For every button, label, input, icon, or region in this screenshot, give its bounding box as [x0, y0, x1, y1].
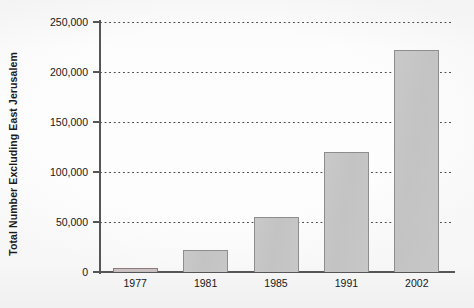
- x-axis-tick-label-1985: 1985: [264, 277, 287, 289]
- y-axis-tick: [93, 121, 100, 123]
- x-axis-tick-label-1991: 1991: [335, 277, 358, 289]
- y-axis-tick: [93, 221, 100, 223]
- x-axis-tick-label-2002: 2002: [405, 277, 428, 289]
- y-axis-tick-label: 0: [26, 266, 88, 278]
- y-axis-tick: [93, 271, 100, 273]
- bar-1985: [254, 217, 299, 272]
- bar-chart-figure: Total Number Excluding East Jerusalem 25…: [0, 0, 474, 308]
- plot-area: [100, 22, 452, 272]
- y-axis-tick-label: 150,000: [26, 116, 88, 128]
- y-axis-tick: [93, 171, 100, 173]
- y-axis-title: Total Number Excluding East Jerusalem: [0, 0, 26, 308]
- x-axis-tick-label-1981: 1981: [194, 277, 217, 289]
- x-axis-tick-label-1977: 1977: [124, 277, 147, 289]
- y-axis-tick-label: 250,000: [26, 16, 88, 28]
- y-axis-tick: [93, 71, 100, 73]
- bar-1977: [113, 268, 158, 273]
- y-axis-tick-label: 100,000: [26, 166, 88, 178]
- y-axis-tick-label: 200,000: [26, 66, 88, 78]
- y-axis-tick: [93, 21, 100, 23]
- bar-1991: [324, 152, 369, 272]
- bar-2002: [394, 50, 439, 272]
- bar-1981: [183, 250, 228, 273]
- y-axis-tick-label: 50,000: [26, 216, 88, 228]
